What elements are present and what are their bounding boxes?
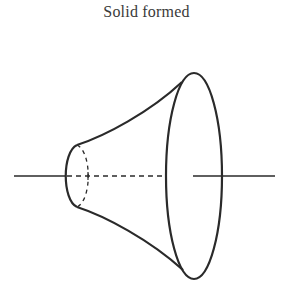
solid-of-revolution-figure: [0, 0, 293, 296]
upper-profile-curve: [77, 82, 182, 145]
